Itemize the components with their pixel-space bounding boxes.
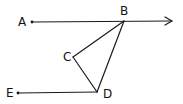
- geometry-diagram: A B C D E: [0, 0, 183, 104]
- point-a-dot: [31, 21, 34, 24]
- segment-bc: [73, 21, 124, 57]
- segment-cd: [73, 57, 97, 92]
- label-e: E: [6, 86, 14, 100]
- point-e-dot: [17, 92, 20, 95]
- ray-ab: [32, 21, 172, 22]
- label-d: D: [103, 87, 112, 101]
- segment-bd: [97, 21, 124, 92]
- label-b: B: [120, 4, 128, 18]
- label-a: A: [18, 15, 27, 29]
- label-c: C: [63, 50, 71, 64]
- segment-ed: [18, 92, 97, 93]
